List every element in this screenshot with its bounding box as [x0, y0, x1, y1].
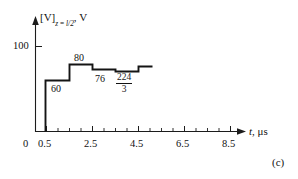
x-axis-title: t, μs	[249, 126, 268, 137]
y-axis-title-main: [V]	[40, 11, 55, 23]
fraction-denominator: 3	[116, 85, 132, 95]
data-label-60: 60	[51, 84, 61, 94]
y-axis-group	[32, 16, 42, 132]
x-tick-label-8.5: 8.5	[222, 139, 235, 150]
x-tick-label-0.5: 0.5	[38, 139, 51, 150]
y-axis-title-subscript: z = l/2	[55, 19, 74, 28]
x-tick-label-4.5: 4.5	[130, 139, 143, 150]
data-label-76: 76	[95, 74, 105, 84]
x-tick-label-6.5: 6.5	[176, 139, 189, 150]
x-origin-label: 0	[23, 139, 28, 150]
y-axis-title-unit: , V	[74, 11, 87, 23]
x-axis-title-unit: , μs	[252, 125, 268, 137]
figure-container: [V]z = l/2, V 100 t, μs 0 0.5 2.5 4.5 6.…	[0, 0, 298, 179]
y-axis-sub-eq: =	[58, 19, 66, 28]
fraction-numerator: 224	[116, 73, 132, 83]
x-axis-arrow-icon	[237, 128, 246, 135]
x-tick-label-2.5: 2.5	[84, 139, 97, 150]
y-tick-label-100: 100	[13, 41, 29, 52]
x-axis-group	[36, 126, 247, 135]
plot-canvas	[0, 0, 298, 179]
y-axis-sub-value: l/2	[66, 19, 74, 28]
y-axis-title: [V]z = l/2, V	[40, 12, 87, 26]
data-label-80: 80	[74, 53, 84, 63]
y-axis-arrow-icon	[32, 16, 39, 25]
data-label-224-over-3: 224 3	[116, 73, 132, 94]
panel-label: (c)	[272, 157, 284, 168]
